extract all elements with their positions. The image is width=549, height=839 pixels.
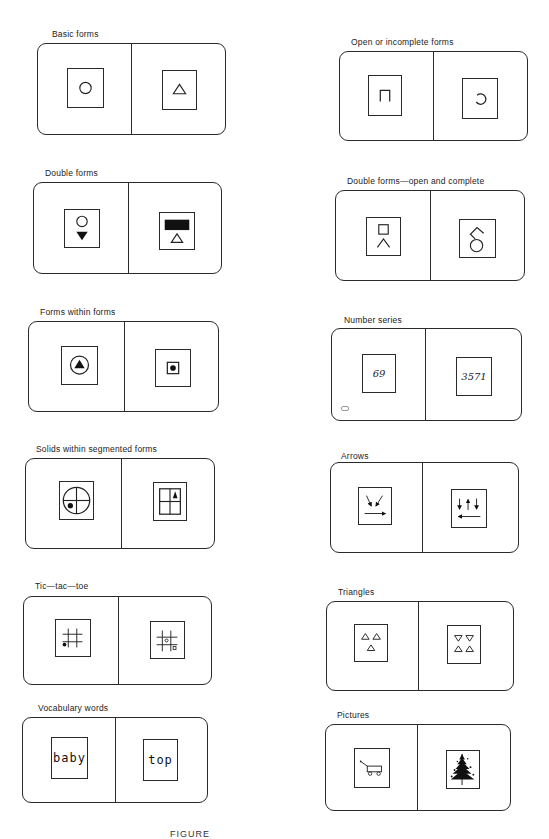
card-divider	[128, 183, 129, 273]
frame-left	[64, 209, 100, 248]
frame-right	[446, 750, 480, 789]
panel-label-basic-forms: Basic forms	[52, 29, 99, 39]
panel-label-triangles: Triangles	[338, 587, 374, 597]
card-divider	[417, 725, 418, 810]
arrows-diagonal-and-right-icon	[359, 488, 391, 524]
frame-right	[162, 70, 197, 110]
card-double-forms	[33, 182, 222, 274]
circle-over-filled-triangle-icon	[65, 210, 99, 247]
frame-left	[366, 217, 401, 256]
card-triangles	[326, 601, 514, 691]
card-pictures	[325, 724, 511, 811]
frame-left	[354, 748, 390, 788]
card-divider	[418, 602, 419, 690]
dot-in-quartered-circle-icon	[60, 482, 93, 519]
card-divider	[118, 597, 119, 684]
card-divider	[124, 322, 125, 411]
frame-left: 69	[362, 354, 396, 393]
card-divider	[433, 52, 434, 140]
figure-caption: FIGURE	[170, 829, 210, 839]
frame-right	[459, 219, 496, 258]
card-divider	[115, 718, 116, 802]
filled-rectangle-over-triangle-icon	[160, 213, 194, 249]
frame-right	[153, 482, 187, 521]
stamp-mark	[341, 406, 349, 411]
frame-right	[150, 621, 185, 659]
filled-triangle-in-circle-icon	[62, 347, 97, 384]
open-square-icon	[369, 76, 401, 115]
panel-label-arrows: Arrows	[341, 451, 369, 461]
vocabulary-word-left: baby	[52, 738, 87, 778]
triangle-in-quartered-square-icon	[154, 483, 186, 520]
frame-left	[358, 487, 392, 525]
card-divider	[121, 459, 122, 548]
card-divider	[430, 191, 431, 280]
circle-outline-icon	[68, 69, 103, 107]
frame-right	[462, 78, 498, 119]
card-divider	[425, 329, 426, 420]
frame-left	[67, 68, 104, 108]
panel-label-tic-tac-toe: Tic—tac—toe	[35, 581, 88, 591]
chevron-over-circle-icon	[460, 220, 495, 257]
tic-tac-toe-grid-with-dot-icon	[56, 620, 90, 656]
frame-right	[451, 489, 487, 528]
frame-right: 3571	[456, 357, 492, 396]
card-divider	[131, 44, 132, 134]
panel-label-double-open-complete: Double forms—open and complete	[347, 176, 484, 186]
card-double-open-complete	[335, 190, 525, 281]
dot-in-square-icon	[156, 350, 190, 386]
wagon-icon	[355, 749, 389, 787]
card-solids-segmented	[25, 458, 215, 549]
panel-label-number-series: Number series	[344, 315, 402, 325]
number-series-left: 69	[363, 355, 395, 392]
card-arrows	[330, 462, 519, 553]
frame-left	[368, 75, 402, 116]
panel-label-forms-within-forms: Forms within forms	[40, 307, 115, 317]
frame-right	[155, 349, 191, 387]
frame-left	[354, 624, 388, 662]
frame-left	[59, 481, 94, 520]
card-vocabulary-words: baby top	[22, 717, 208, 803]
card-open-forms	[339, 51, 528, 141]
card-divider	[422, 463, 423, 552]
tree-icon	[447, 751, 479, 788]
card-tic-tac-toe	[23, 596, 212, 685]
vocabulary-word-right: top	[144, 740, 177, 780]
three-triangles-icon	[355, 625, 387, 661]
frame-left	[61, 346, 98, 385]
card-forms-within-forms	[28, 321, 219, 412]
panel-label-pictures: Pictures	[337, 710, 369, 720]
frame-left	[55, 619, 91, 657]
arrows-vertical-and-left-icon	[452, 490, 486, 527]
frame-left: baby	[51, 737, 88, 779]
four-triangles-icon	[448, 626, 480, 663]
panel-label-solids-segmented: Solids within segmented forms	[36, 444, 157, 454]
open-circle-icon	[463, 79, 497, 118]
number-series-right: 3571	[457, 358, 491, 395]
triangle-outline-icon	[163, 71, 196, 109]
square-over-caret-icon	[367, 218, 400, 255]
panel-label-open-forms: Open or incomplete forms	[351, 37, 454, 47]
frame-right	[159, 212, 195, 250]
panel-label-vocabulary-words: Vocabulary words	[38, 703, 108, 713]
frame-right: top	[143, 739, 178, 781]
card-basic-forms	[37, 43, 226, 135]
panel-label-double-forms: Double forms	[45, 168, 98, 178]
tic-tac-toe-grid-with-circles-icon	[151, 622, 184, 658]
frame-right	[447, 625, 481, 664]
card-number-series: 69 3571	[331, 328, 522, 421]
